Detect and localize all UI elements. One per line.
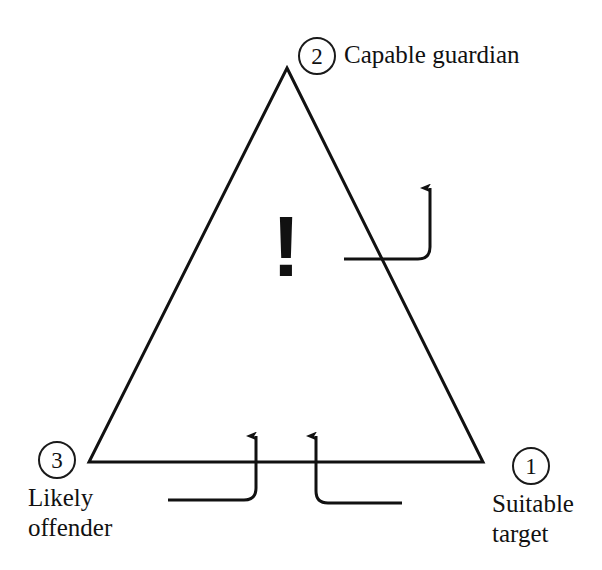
vertex-label-suitable-target[interactable]: 1 Suitable target — [502, 447, 574, 549]
warning-exclamation-icon: ! — [268, 200, 304, 292]
vertex-number-badge-suitable-target: 1 — [512, 447, 550, 485]
vertex-text-capable-guardian: Capable guardian — [344, 40, 520, 70]
vertex-text-likely-offender: Likely offender — [28, 483, 112, 543]
vertex-label-likely-offender[interactable]: 3 Likely offender — [38, 441, 112, 543]
vertex-number-badge-capable-guardian: 2 — [298, 37, 336, 75]
guardian-edge-arrow — [344, 188, 430, 259]
vertex-label-capable-guardian[interactable]: 2 Capable guardian — [298, 37, 520, 75]
vertex-text-suitable-target: Suitable target — [492, 489, 574, 549]
vertex-number-badge-likely-offender: 3 — [38, 441, 76, 479]
crime-triangle-diagram: ! 2 Capable guardian 1 Suitable target 3… — [0, 0, 602, 570]
left-base-arrow — [168, 436, 256, 500]
right-base-arrow — [316, 436, 402, 503]
